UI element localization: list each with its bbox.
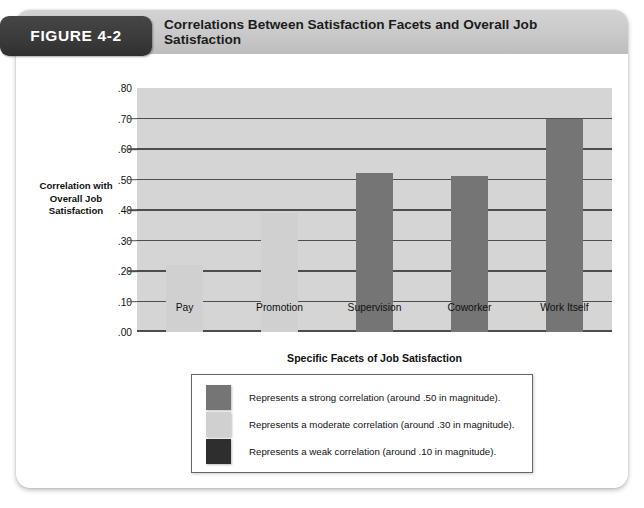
bar-series <box>137 88 612 332</box>
legend-item-weak: Represents a weak correlation (around .1… <box>206 438 524 464</box>
y-axis-tick-mark <box>128 270 137 272</box>
x-axis-label-coworker: Coworker <box>447 302 491 313</box>
x-axis-label-work-itself: Work Itself <box>540 302 588 313</box>
legend-label-weak: Represents a weak correlation (around .1… <box>249 446 496 457</box>
x-axis-label-pay: Pay <box>176 302 194 313</box>
y-axis-tick-mark <box>128 209 137 211</box>
figure-header: FIGURE 4-2 Correlations Between Satisfac… <box>16 10 628 54</box>
bar-promotion <box>261 213 298 332</box>
legend-swatch-strong <box>206 385 231 410</box>
figure-card: FIGURE 4-2 Correlations Between Satisfac… <box>16 10 628 488</box>
chart-area: Correlation with Overall Job Satisfactio… <box>16 54 628 488</box>
x-axis-label-promotion: Promotion <box>256 302 303 313</box>
y-axis-tick-mark <box>128 148 137 150</box>
plot-area: .80.70.60.50.40.30.20.10.00 <box>137 88 612 332</box>
x-axis-title: Specific Facets of Job Satisfaction <box>137 352 612 364</box>
y-axis-tick-mark <box>128 179 137 181</box>
figure-title: Correlations Between Satisfaction Facets… <box>164 10 616 54</box>
y-axis-tick-mark <box>128 240 137 242</box>
y-axis-tick-mark <box>128 301 137 303</box>
legend-item-strong: Represents a strong correlation (around … <box>206 384 524 410</box>
legend-item-moderate: Represents a moderate correlation (aroun… <box>206 411 524 437</box>
legend-label-moderate: Represents a moderate correlation (aroun… <box>249 419 514 430</box>
bar-pay <box>166 265 203 332</box>
legend-label-strong: Represents a strong correlation (around … <box>249 392 500 403</box>
legend-swatch-weak <box>206 439 231 464</box>
legend-swatch-moderate <box>206 412 231 437</box>
figure-number-badge: FIGURE 4-2 <box>0 16 152 56</box>
y-axis-tick-mark <box>128 118 137 120</box>
y-axis-title-line-2: Overall Job <box>24 193 128 206</box>
y-axis-tick-label: .80 <box>88 83 137 94</box>
legend: Represents a strong correlation (around … <box>191 374 533 473</box>
bar-work-itself <box>546 119 583 333</box>
x-axis-label-supervision: Supervision <box>348 302 402 313</box>
figure-number-label: FIGURE 4-2 <box>30 27 121 45</box>
y-axis-tick-label: .00 <box>88 327 137 338</box>
